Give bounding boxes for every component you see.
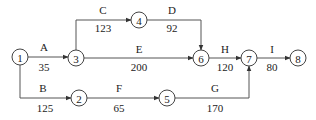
edge-duration: 92 bbox=[167, 22, 178, 34]
node-number: 7 bbox=[246, 53, 252, 65]
edge-duration: 65 bbox=[114, 102, 126, 114]
edge-g: G170 bbox=[175, 66, 249, 114]
edge-e: E200 bbox=[84, 43, 193, 73]
node-8: 8 bbox=[290, 50, 306, 66]
edge-duration: 125 bbox=[37, 102, 54, 114]
edge-label: B bbox=[39, 82, 46, 94]
node-number: 4 bbox=[136, 15, 142, 27]
node-6: 6 bbox=[193, 50, 209, 66]
edge-d: D92 bbox=[147, 4, 201, 50]
node-number: 5 bbox=[164, 93, 170, 105]
node-number: 2 bbox=[76, 93, 82, 105]
node-number: 8 bbox=[295, 53, 301, 65]
nodes: 12345678 bbox=[12, 12, 306, 106]
node-4: 4 bbox=[131, 12, 147, 28]
edge-duration: 200 bbox=[131, 61, 148, 73]
edge-label: D bbox=[168, 4, 176, 16]
node-number: 3 bbox=[73, 53, 79, 65]
edge-label: I bbox=[270, 43, 274, 55]
edge-a: A35 bbox=[28, 41, 68, 73]
edge-i: I80 bbox=[257, 43, 290, 73]
edge-label: F bbox=[116, 82, 122, 94]
edge-label: G bbox=[211, 82, 219, 94]
node-7: 7 bbox=[241, 50, 257, 66]
edge-label: A bbox=[40, 41, 48, 53]
edge-duration: 170 bbox=[207, 102, 224, 114]
node-5: 5 bbox=[159, 90, 175, 106]
node-2: 2 bbox=[71, 90, 87, 106]
edge-duration: 80 bbox=[267, 61, 279, 73]
node-number: 1 bbox=[17, 52, 23, 64]
edge-label: C bbox=[99, 4, 106, 16]
node-1: 1 bbox=[12, 49, 28, 65]
node-3: 3 bbox=[68, 50, 84, 66]
edge-duration: 120 bbox=[217, 61, 234, 73]
edge-duration: 35 bbox=[39, 61, 51, 73]
activity-network-diagram: A35B125C123D92E200F65G170H120I80 1234567… bbox=[0, 0, 316, 120]
edge-duration: 123 bbox=[95, 22, 112, 34]
node-number: 6 bbox=[198, 53, 204, 65]
edge-h: H120 bbox=[209, 43, 241, 73]
edge-f: F65 bbox=[87, 82, 159, 114]
edge-label: H bbox=[221, 43, 229, 55]
edge-label: E bbox=[136, 43, 143, 55]
edge-c: C123 bbox=[76, 4, 131, 50]
